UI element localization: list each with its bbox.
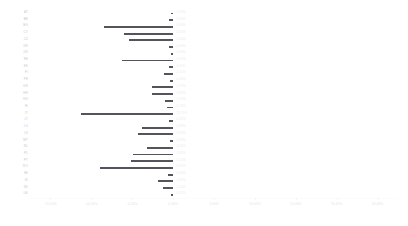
plot-area: AT-0.25%BE-0.55%BG-8.45%CY-6.05%CZ-5.35%… xyxy=(30,10,398,198)
bar xyxy=(167,107,173,109)
bar-row: CY-6.05% xyxy=(30,30,398,37)
bar-row: IE-0.70% xyxy=(30,104,398,111)
bar xyxy=(124,33,173,35)
bar xyxy=(165,100,174,102)
bar-row: BG-8.45% xyxy=(30,23,398,30)
x-tick-label: -15.00% xyxy=(44,202,57,206)
bar xyxy=(142,127,173,129)
bar-row: FI-1.15% xyxy=(30,70,398,77)
bar-row: SK-1.25% xyxy=(30,185,398,192)
bar xyxy=(169,66,173,68)
bar-row: HR-2.60% xyxy=(30,91,398,98)
x-tick-mark xyxy=(337,198,338,200)
bar xyxy=(152,93,173,95)
bar-row: PT-5.15% xyxy=(30,158,398,165)
bar-row: CZ-5.35% xyxy=(30,37,398,44)
bar xyxy=(129,39,173,41)
bar xyxy=(170,140,173,142)
bar-row: GR-2.55% xyxy=(30,84,398,91)
bar-row: PL-4.95% xyxy=(30,151,398,158)
bar-row: RO-8.95% xyxy=(30,164,398,171)
bar-row: BE-0.55% xyxy=(30,17,398,24)
x-tick-mark xyxy=(91,198,92,200)
x-tick-label: 25.00% xyxy=(372,202,384,206)
bar-row: LV-4.35% xyxy=(30,131,398,138)
category-label: UK xyxy=(2,190,28,197)
bar xyxy=(168,174,173,176)
bar xyxy=(138,133,174,135)
bar xyxy=(169,46,173,48)
value-label: -0.20% xyxy=(176,190,186,197)
bar xyxy=(147,147,173,149)
x-tick-mark xyxy=(255,198,256,200)
x-axis: -15.00%-10.00%-5.00%0.00%5.00%10.00%15.0… xyxy=(30,198,398,220)
x-tick-label: -10.00% xyxy=(85,202,98,206)
bar xyxy=(171,194,173,196)
x-tick-mark xyxy=(296,198,297,200)
bar-row: DK-0.30% xyxy=(30,50,398,57)
bar xyxy=(163,187,173,189)
bar-row: LU-3.85% xyxy=(30,124,398,131)
bar-row: SE-0.60% xyxy=(30,171,398,178)
bar-row: EE-6.25% xyxy=(30,57,398,64)
bar xyxy=(164,73,173,75)
bar xyxy=(122,60,173,62)
bar-row: LT-0.55% xyxy=(30,117,398,124)
x-tick-mark xyxy=(214,198,215,200)
bar xyxy=(171,13,173,15)
x-tick-label: 15.00% xyxy=(290,202,302,206)
bar xyxy=(158,180,173,182)
bar-row: HU-1.05% xyxy=(30,97,398,104)
x-tick-label: -5.00% xyxy=(127,202,138,206)
bar-row: FR-0.40% xyxy=(30,77,398,84)
x-tick-label: 10.00% xyxy=(249,202,261,206)
bar-row: ES-0.45% xyxy=(30,64,398,71)
bar xyxy=(131,160,173,162)
x-tick-mark xyxy=(50,198,51,200)
bar-row: NL-3.20% xyxy=(30,144,398,151)
x-tick-label: 5.00% xyxy=(209,202,219,206)
bar xyxy=(133,154,173,156)
x-tick-mark xyxy=(132,198,133,200)
bar-chart: AT-0.25%BE-0.55%BG-8.45%CY-6.05%CZ-5.35%… xyxy=(0,0,408,226)
bar xyxy=(104,26,173,28)
bar xyxy=(169,19,173,21)
x-tick-mark xyxy=(173,198,174,200)
bar-row: DE-0.45% xyxy=(30,44,398,51)
bar-row: MT-0.35% xyxy=(30,138,398,145)
x-tick-label: 20.00% xyxy=(331,202,343,206)
bar xyxy=(169,120,173,122)
bar-row: SI-1.85% xyxy=(30,178,398,185)
x-tick-label: 0.00% xyxy=(168,202,178,206)
bar xyxy=(171,53,173,55)
bar xyxy=(81,113,173,115)
x-tick-mark xyxy=(378,198,379,200)
bar xyxy=(170,80,173,82)
bar xyxy=(100,167,173,169)
bar-row: UK-0.20% xyxy=(30,191,398,198)
bar-row: IT-11.25% xyxy=(30,111,398,118)
bar-row: AT-0.25% xyxy=(30,10,398,17)
bar xyxy=(152,86,173,88)
